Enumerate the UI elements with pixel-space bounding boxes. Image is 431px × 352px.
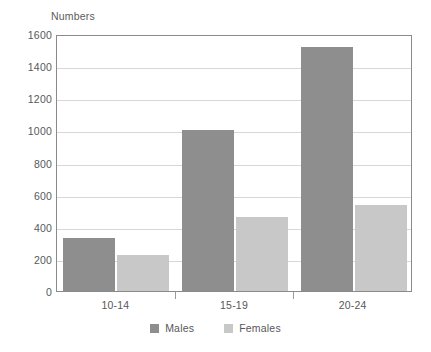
bar-males-20-24 bbox=[301, 47, 353, 291]
bar-males-10-14 bbox=[63, 238, 115, 291]
plot-area bbox=[56, 35, 412, 292]
x-separator-tick-1 bbox=[175, 292, 176, 299]
gridline-1000 bbox=[57, 132, 411, 133]
gridline-800 bbox=[57, 165, 411, 166]
x-cat-label-20-24: 20-24 bbox=[339, 299, 367, 311]
y-axis-label: Numbers bbox=[51, 10, 95, 22]
gridline-600 bbox=[57, 197, 411, 198]
gridline-1400 bbox=[57, 68, 411, 69]
x-separator-tick-2 bbox=[293, 292, 294, 299]
y-tick-800: 800 bbox=[4, 158, 52, 170]
x-cat-label-15-19: 15-19 bbox=[220, 299, 248, 311]
legend-swatch-females-icon bbox=[224, 324, 233, 333]
y-tick-400: 400 bbox=[4, 222, 52, 234]
gridline-1200 bbox=[57, 100, 411, 101]
y-tick-1400: 1400 bbox=[4, 61, 52, 73]
bar-males-15-19 bbox=[182, 130, 234, 291]
legend-label-females: Females bbox=[239, 322, 281, 334]
y-tick-200: 200 bbox=[4, 254, 52, 266]
chart-legend: Males Females bbox=[0, 322, 431, 334]
y-tick-1200: 1200 bbox=[4, 93, 52, 105]
x-cat-label-10-14: 10-14 bbox=[101, 299, 129, 311]
bar-females-20-24 bbox=[355, 205, 407, 291]
y-tick-1000: 1000 bbox=[4, 125, 52, 137]
bar-females-10-14 bbox=[117, 255, 169, 291]
legend-swatch-males-icon bbox=[150, 324, 159, 333]
y-axis-tick-labels: 1600 1400 1200 1000 800 600 400 200 0 bbox=[0, 35, 52, 292]
bar-females-15-19 bbox=[236, 217, 288, 291]
legend-item-males: Males bbox=[150, 322, 194, 334]
grouped-bar-chart: Numbers 1600 1400 1200 1000 800 600 400 … bbox=[0, 0, 431, 352]
y-tick-1600: 1600 bbox=[4, 29, 52, 41]
y-tick-0: 0 bbox=[4, 286, 52, 298]
legend-item-females: Females bbox=[224, 322, 281, 334]
legend-label-males: Males bbox=[165, 322, 194, 334]
y-tick-600: 600 bbox=[4, 190, 52, 202]
